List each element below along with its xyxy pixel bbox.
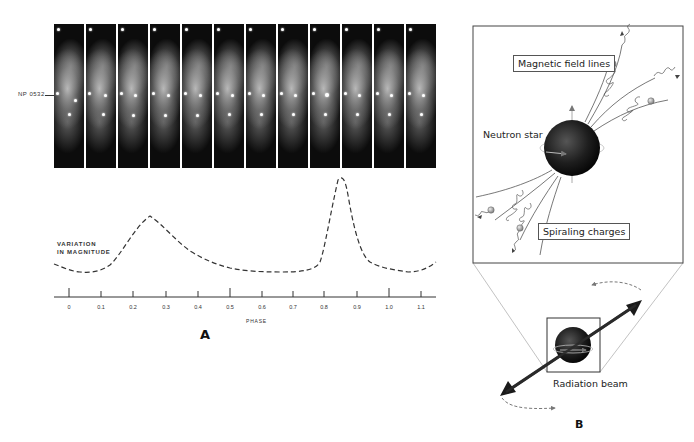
zoom-line-right (600, 263, 683, 372)
charge-particle (517, 225, 523, 231)
neutron-star-sphere (544, 120, 600, 176)
panel-b-letter: B (575, 418, 583, 431)
label-neutron-star: Neutron star (483, 129, 543, 140)
beam-rotation-arc-lower (502, 398, 555, 409)
label-spiraling-charges: Spiraling charges (538, 223, 630, 240)
beam-arrowhead-upper (626, 300, 642, 316)
label-radiation-beam: Radiation beam (553, 378, 628, 389)
charge-particle (648, 98, 654, 104)
beam-rotation-arc-upper (592, 282, 641, 290)
zoom-line-left (473, 263, 547, 372)
charge-particle (488, 207, 494, 213)
label-magnetic-field-lines: Magnetic field lines (513, 55, 615, 72)
